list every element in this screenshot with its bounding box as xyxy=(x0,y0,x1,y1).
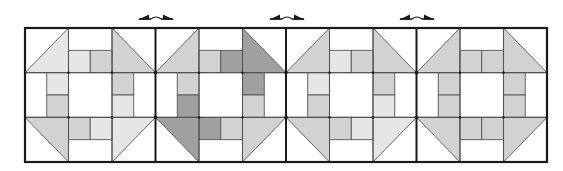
arrow-bridge xyxy=(151,17,161,19)
block-1 xyxy=(25,28,156,162)
seam-node xyxy=(284,71,288,75)
grid-node xyxy=(372,71,374,73)
grid-node xyxy=(328,116,330,118)
right-patch-top xyxy=(112,73,134,95)
left-patch-top xyxy=(438,73,460,95)
right-patch-top xyxy=(243,73,265,95)
top-patch-right xyxy=(90,50,112,72)
left-patch-bottom xyxy=(308,95,330,117)
bottom-patch-left xyxy=(330,117,352,139)
block-4 xyxy=(417,28,548,162)
double-arrow-icon xyxy=(269,15,305,20)
arrow-bridge xyxy=(282,17,292,19)
bottom-patch-right xyxy=(90,117,112,139)
quilt-diagram xyxy=(0,0,563,171)
top-patch-right xyxy=(221,50,243,72)
block-background xyxy=(25,28,156,162)
grid-node xyxy=(67,116,69,118)
block-2 xyxy=(156,28,287,162)
block-background xyxy=(417,28,548,162)
bottom-patch-left xyxy=(69,117,91,139)
left-patch-top xyxy=(308,73,330,95)
seam-node xyxy=(154,71,158,75)
grid-node xyxy=(241,116,243,118)
grid-node xyxy=(198,116,200,118)
grid-node xyxy=(502,116,504,118)
bottom-patch-right xyxy=(351,117,373,139)
block-3 xyxy=(286,28,417,162)
right-patch-bottom xyxy=(504,95,526,117)
seam-node xyxy=(284,116,288,120)
top-patch-left xyxy=(330,50,352,72)
grid-node xyxy=(328,71,330,73)
left-patch-bottom xyxy=(177,95,199,117)
grid-node xyxy=(67,71,69,73)
double-arrow-icon xyxy=(399,15,435,20)
right-patch-top xyxy=(373,73,395,95)
grid-node xyxy=(241,71,243,73)
left-patch-bottom xyxy=(438,95,460,117)
grid-node xyxy=(502,71,504,73)
right-patch-top xyxy=(504,73,526,95)
right-patch-bottom xyxy=(112,95,134,117)
left-patch-top xyxy=(47,73,69,95)
grid-node xyxy=(111,116,113,118)
top-patch-left xyxy=(69,50,91,72)
grid-node xyxy=(459,71,461,73)
left-patch-bottom xyxy=(47,95,69,117)
top-patch-left xyxy=(199,50,221,72)
block-background xyxy=(286,28,417,162)
grid-node xyxy=(198,71,200,73)
bottom-patch-right xyxy=(221,117,243,139)
grid-node xyxy=(111,71,113,73)
grid-node xyxy=(372,116,374,118)
grid-node xyxy=(459,116,461,118)
bottom-patch-right xyxy=(482,117,504,139)
bottom-patch-left xyxy=(460,117,482,139)
top-patch-right xyxy=(482,50,504,72)
top-patch-right xyxy=(351,50,373,72)
seam-node xyxy=(415,71,419,75)
block-background xyxy=(156,28,287,162)
seam-node xyxy=(154,116,158,120)
arrow-bridge xyxy=(412,17,422,19)
seam-node xyxy=(415,116,419,120)
left-patch-top xyxy=(177,73,199,95)
right-patch-bottom xyxy=(243,95,265,117)
right-patch-bottom xyxy=(373,95,395,117)
top-patch-left xyxy=(460,50,482,72)
double-arrow-icon xyxy=(138,15,174,20)
bottom-patch-left xyxy=(199,117,221,139)
